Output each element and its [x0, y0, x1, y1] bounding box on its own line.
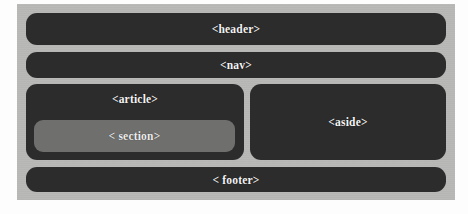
layout-block-header-label: <header>: [212, 23, 261, 35]
layout-block-footer-label: < footer>: [212, 174, 259, 186]
layout-block-header: <header>: [26, 13, 446, 45]
layout-block-footer: < footer>: [26, 167, 446, 192]
layout-block-nav: <nav>: [26, 52, 446, 78]
diagram-canvas: <header> <nav> <article> < section> <asi…: [0, 0, 468, 214]
layout-block-article: <article> < section>: [26, 84, 244, 160]
layout-block-section-label: < section>: [109, 130, 161, 142]
layout-block-article-label: <article>: [26, 93, 244, 105]
layout-block-nav-label: <nav>: [220, 59, 252, 71]
layout-block-aside-label: <aside>: [328, 116, 367, 128]
page-layout-container: <header> <nav> <article> < section> <asi…: [17, 4, 455, 200]
layout-block-section: < section>: [34, 120, 235, 152]
layout-block-aside: <aside>: [250, 84, 446, 160]
